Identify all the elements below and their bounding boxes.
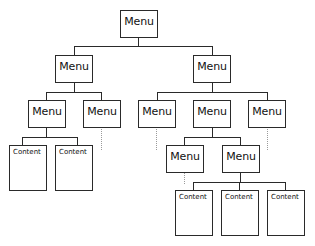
content-node: Content — [267, 190, 305, 236]
dotted-continuation — [101, 127, 102, 150]
menu-node-level3: Menu — [83, 100, 121, 128]
menu-tree-diagram: Menu Menu Menu Menu Menu Menu Menu Menu … — [0, 0, 315, 246]
content-node: Content — [55, 145, 93, 191]
connector — [157, 92, 158, 100]
menu-node-level3: Menu — [28, 100, 66, 128]
dotted-continuation — [267, 127, 268, 150]
menu-node-level2-left: Menu — [55, 55, 93, 83]
connector — [46, 127, 47, 137]
menu-node-level3: Menu — [138, 100, 176, 128]
content-node: Content — [221, 190, 259, 236]
menu-node-level2-right: Menu — [193, 55, 231, 83]
connector — [22, 137, 23, 145]
connector — [267, 92, 268, 100]
connector — [285, 182, 286, 190]
connector — [239, 182, 240, 190]
menu-node-level3: Menu — [248, 100, 286, 128]
connector — [157, 92, 268, 93]
menu-node-level3: Menu — [193, 100, 231, 128]
dotted-continuation — [184, 172, 185, 184]
connector — [212, 46, 213, 55]
connector — [240, 172, 241, 182]
connector — [77, 137, 78, 145]
menu-node-level4: Menu — [166, 145, 204, 173]
connector — [46, 92, 102, 93]
connector — [184, 137, 241, 138]
dotted-continuation — [156, 127, 157, 150]
connector — [46, 92, 47, 100]
connector — [240, 137, 241, 145]
menu-node-root: Menu — [120, 10, 158, 38]
connector — [22, 137, 78, 138]
connector — [101, 92, 102, 100]
connector — [212, 82, 213, 92]
connector — [184, 137, 185, 145]
content-node: Content — [175, 190, 213, 236]
connector — [74, 46, 213, 47]
connector — [138, 37, 139, 46]
connector — [193, 182, 194, 190]
content-node: Content — [9, 145, 47, 191]
connector — [212, 127, 213, 137]
connector — [74, 82, 75, 92]
connector — [74, 46, 75, 55]
menu-node-level4: Menu — [222, 145, 260, 173]
